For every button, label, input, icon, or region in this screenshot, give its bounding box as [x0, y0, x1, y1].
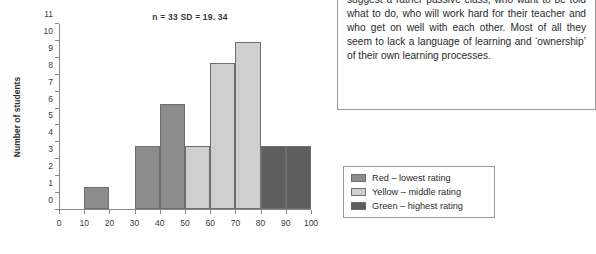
y-tick	[55, 23, 59, 24]
y-tick-label: 5	[33, 110, 53, 120]
legend-row: Yellow – middle rating	[351, 185, 488, 199]
histogram-chart: n = 33 SD = 19. 34 Number of students 01…	[0, 0, 330, 254]
x-tick	[185, 210, 186, 214]
x-tick-label: 90	[273, 218, 299, 228]
x-tick-label: 10	[71, 218, 97, 228]
x-tick-label: 80	[248, 218, 274, 228]
y-tick	[55, 175, 59, 176]
y-tick	[55, 74, 59, 75]
legend-label: Green – highest rating	[372, 201, 463, 211]
x-tick	[311, 210, 312, 214]
bar	[185, 146, 210, 209]
x-tick-label: 70	[222, 218, 248, 228]
y-tick	[55, 124, 59, 125]
legend-swatch	[351, 174, 366, 182]
y-tick	[55, 40, 59, 41]
x-tick-label: 0	[46, 218, 72, 228]
y-tick	[55, 141, 59, 142]
bar	[261, 146, 286, 209]
legend-row: Green – highest rating	[351, 199, 488, 213]
commentary-text-box: suggest a rather passive class, who want…	[337, 0, 596, 110]
x-tick	[286, 210, 287, 214]
y-axis-line	[59, 24, 60, 210]
x-tick	[59, 210, 60, 214]
bar	[210, 63, 235, 209]
x-tick	[235, 210, 236, 214]
x-tick	[210, 210, 211, 214]
y-tick-label: 0	[33, 195, 53, 205]
figure-caption	[14, 249, 574, 254]
x-tick-label: 50	[172, 218, 198, 228]
x-tick-label: 100	[298, 218, 324, 228]
y-tick	[55, 108, 59, 109]
chart-title: n = 33 SD = 19. 34	[110, 12, 270, 22]
legend-row: Red – lowest rating	[351, 171, 488, 185]
y-tick-label: 6	[33, 94, 53, 104]
bar	[286, 146, 311, 209]
y-tick-label: 2	[33, 161, 53, 171]
bar	[235, 42, 260, 209]
bar	[135, 146, 160, 209]
y-tick	[55, 57, 59, 58]
x-tick	[135, 210, 136, 214]
bar	[84, 187, 109, 209]
x-tick	[84, 210, 85, 214]
plot-area: 01234567891011 0102030405060708090100	[59, 24, 311, 210]
bar	[160, 104, 185, 209]
y-tick	[55, 91, 59, 92]
x-tick-label: 40	[147, 218, 173, 228]
x-tick	[160, 210, 161, 214]
y-tick-label: 10	[33, 26, 53, 36]
y-tick-label: 7	[33, 77, 53, 87]
x-tick-label: 20	[96, 218, 122, 228]
legend-label: Red – lowest rating	[372, 173, 451, 183]
y-tick	[55, 192, 59, 193]
y-axis-title: Number of students	[12, 52, 22, 182]
y-tick	[55, 158, 59, 159]
chart-legend: Red – lowest ratingYellow – middle ratin…	[343, 166, 495, 218]
commentary-text: suggest a rather passive class, who want…	[347, 0, 586, 63]
y-tick-label: 3	[33, 144, 53, 154]
y-tick-label: 8	[33, 60, 53, 70]
x-tick	[261, 210, 262, 214]
x-tick-label: 30	[122, 218, 148, 228]
x-tick	[109, 210, 110, 214]
x-tick-label: 60	[197, 218, 223, 228]
y-tick-label: 9	[33, 43, 53, 53]
legend-label: Yellow – middle rating	[372, 187, 461, 197]
legend-swatch	[351, 202, 366, 210]
y-tick-label: 4	[33, 127, 53, 137]
legend-swatch	[351, 188, 366, 196]
y-tick-label: 1	[33, 178, 53, 188]
y-tick-label: 11	[33, 9, 53, 19]
